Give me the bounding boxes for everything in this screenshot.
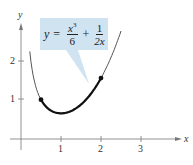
- x-tick-label: 3: [138, 143, 143, 154]
- endpoint-marker: [39, 97, 44, 102]
- y-tick-label: 2: [10, 55, 15, 66]
- eq-term1-exp: 3: [73, 21, 77, 29]
- highlighted-arc: [41, 78, 101, 113]
- eq-term1: x3 6: [67, 22, 77, 47]
- equation-label: y = x3 6 + 1 2x: [44, 19, 108, 49]
- callout-pointer: [66, 50, 89, 84]
- y-axis-label: y: [17, 9, 23, 20]
- eq-term2-den: 2x: [94, 35, 104, 47]
- endpoint-marker: [99, 76, 104, 81]
- x-axis-label: x: [183, 133, 189, 144]
- eq-plus: +: [83, 27, 90, 42]
- eq-equals: =: [53, 27, 60, 42]
- eq-lhs: y: [44, 27, 49, 42]
- y-tick-label: 1: [10, 93, 15, 104]
- chart: 1 2 3 1 2 x y y = x3 6 + 1 2x: [0, 0, 193, 165]
- x-tick-label: 2: [98, 143, 103, 154]
- x-tick-label: 1: [58, 143, 63, 154]
- eq-term2: 1 2x: [94, 22, 104, 47]
- x-axis-arrow-icon: [175, 137, 182, 141]
- y-axis-arrow-icon: [19, 23, 23, 30]
- eq-term1-den: 6: [70, 35, 76, 47]
- eq-term2-num: 1: [96, 22, 104, 35]
